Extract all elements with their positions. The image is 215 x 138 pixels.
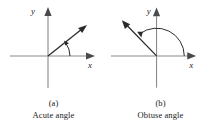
terminal-ray-acute (48, 25, 87, 56)
panel-acute-angle: y x (a) Acute angle (0, 0, 107, 138)
y-axis-label-acute: y (30, 6, 35, 16)
x-axis-acute (10, 52, 95, 59)
y-axis-obtuse (153, 7, 160, 87)
obtuse-angle-diagram: y x (107, 0, 214, 96)
panel-a-caption-name: Acute angle (0, 110, 107, 121)
y-axis-acute (44, 7, 51, 88)
angle-arc-acute (64, 40, 70, 56)
x-axis-label-acute: x (87, 60, 92, 70)
acute-angle-diagram: y x (0, 0, 107, 96)
terminal-ray-obtuse (122, 20, 157, 56)
panel-a-caption-label: (a) (0, 98, 107, 109)
panel-b-caption-name: Obtuse angle (107, 110, 214, 121)
angle-arc-obtuse (137, 28, 184, 56)
x-axis-label-obtuse: x (188, 60, 193, 70)
y-axis-label-obtuse: y (146, 6, 151, 16)
panel-b-caption-label: (b) (107, 98, 214, 109)
panel-obtuse-angle: y x (b) Obtuse angle (107, 0, 214, 138)
figure-container: y x (a) Acute angle (0, 0, 215, 138)
